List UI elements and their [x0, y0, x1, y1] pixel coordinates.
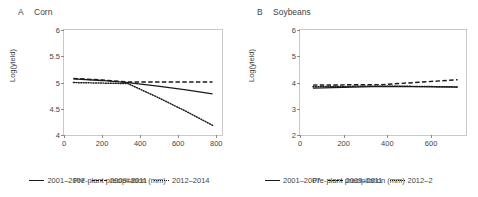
x-tick-mark	[102, 135, 103, 138]
x-tick-label: 0	[298, 139, 302, 148]
plot-area-soybeans: Log(yield) 234560200400600 Pre-plant pre…	[239, 24, 478, 156]
y-axis-label-soybeans: Log(yield)	[247, 49, 256, 82]
legend-swatch-dotted-icon	[390, 180, 405, 181]
y-tick-mark	[297, 56, 300, 57]
x-tick-label: 200	[96, 139, 109, 148]
y-tick-label: 6	[292, 26, 296, 35]
panel-corn: ACorn Log(yield) 44.555.560200400600800 …	[0, 0, 239, 197]
series-line-solid	[73, 79, 212, 94]
y-tick-mark	[61, 30, 64, 31]
x-tick-label: 600	[425, 139, 438, 148]
x-tick-label: 400	[381, 139, 394, 148]
legend-swatch-solid-icon	[265, 180, 280, 181]
panel-a-title: Corn	[34, 7, 52, 17]
y-tick-mark	[61, 109, 64, 110]
legend-label: 2001–2007	[283, 176, 321, 185]
x-tick-mark	[216, 135, 217, 138]
legend-label: 2001–2007	[47, 176, 85, 185]
plot-frame-corn: 44.555.560200400600800	[63, 29, 223, 136]
y-tick-mark	[297, 30, 300, 31]
x-tick-mark	[344, 135, 345, 138]
x-tick-mark	[387, 135, 388, 138]
y-tick-label: 2	[292, 131, 296, 140]
series-line-dotted	[313, 86, 458, 87]
y-tick-label: 4	[56, 131, 60, 140]
legend-item[interactable]: 2012–2	[390, 176, 433, 185]
y-tick-mark	[297, 109, 300, 110]
legend-soybeans: 2001–20072009–20112012–2	[239, 176, 478, 185]
panel-b-letter: B	[257, 7, 273, 17]
panel-soybeans: BSoybeans Log(yield) 234560200400600 Pre…	[239, 0, 478, 197]
legend-label: 2009–2011	[346, 176, 383, 185]
series-line-dotted	[73, 83, 212, 126]
legend-swatch-dashed-icon	[92, 180, 107, 181]
x-tick-mark	[178, 135, 179, 138]
x-tick-label: 200	[337, 139, 350, 148]
y-tick-label: 5	[292, 52, 296, 61]
y-tick-label: 4	[292, 78, 296, 87]
legend-swatch-solid-icon	[29, 180, 44, 181]
legend-item[interactable]: 2001–2007	[265, 176, 321, 185]
y-tick-label: 3	[292, 104, 296, 113]
y-tick-mark	[297, 83, 300, 84]
legend-item[interactable]: 2001–2007	[29, 176, 85, 185]
plot-area-corn: Log(yield) 44.555.560200400600800 Pre-pl…	[0, 24, 239, 156]
series-line-dashed	[313, 80, 458, 85]
y-tick-mark	[61, 56, 64, 57]
legend-item[interactable]: 2012–2014	[154, 176, 210, 185]
legend-label: 2009–2011	[110, 176, 147, 185]
legend-swatch-dotted-icon	[154, 180, 169, 181]
x-tick-label: 800	[210, 139, 223, 148]
legend-swatch-dashed-icon	[328, 180, 343, 181]
y-tick-mark	[61, 83, 64, 84]
series-lines-soybeans	[300, 30, 466, 135]
x-tick-mark	[431, 135, 432, 138]
x-tick-mark	[140, 135, 141, 138]
panel-a-heading: ACorn	[18, 7, 52, 17]
y-tick-label: 5	[56, 78, 60, 87]
series-lines-corn	[64, 30, 222, 135]
y-tick-label: 5.5	[50, 52, 60, 61]
x-tick-mark	[64, 135, 65, 138]
x-tick-label: 400	[134, 139, 147, 148]
x-tick-label: 600	[172, 139, 185, 148]
panel-b-title: Soybeans	[273, 7, 311, 17]
panel-b-heading: BSoybeans	[257, 7, 311, 17]
legend-label: 2012–2	[408, 176, 433, 185]
y-tick-label: 6	[56, 26, 60, 35]
series-line-dashed	[73, 78, 212, 82]
legend-item[interactable]: 2009–2011	[92, 176, 147, 185]
y-axis-label-corn: Log(yield)	[8, 49, 17, 82]
panel-a-letter: A	[18, 7, 34, 17]
legend-label: 2012–2014	[172, 176, 210, 185]
x-tick-mark	[300, 135, 301, 138]
legend-corn: 2001–20072009–20112012–2014	[0, 176, 239, 185]
x-tick-label: 0	[62, 139, 66, 148]
legend-item[interactable]: 2009–2011	[328, 176, 383, 185]
y-tick-label: 4.5	[50, 104, 60, 113]
plot-frame-soybeans: 234560200400600	[299, 29, 467, 136]
figure-container: ACorn Log(yield) 44.555.560200400600800 …	[0, 0, 478, 197]
